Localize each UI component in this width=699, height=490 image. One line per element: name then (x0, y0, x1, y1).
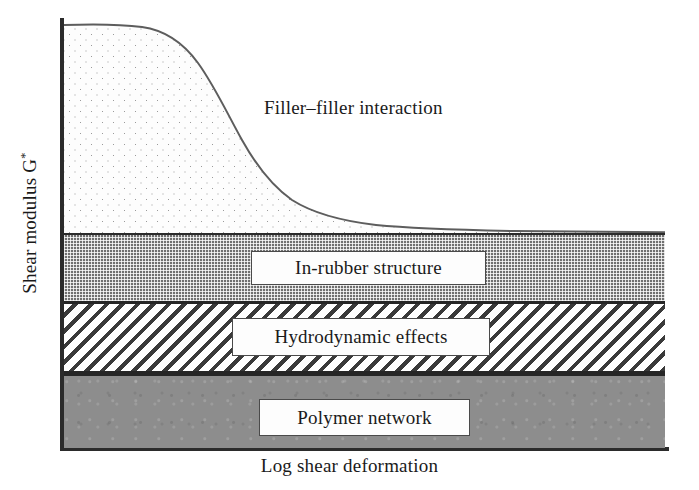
band-filler-filler-interaction (64, 18, 665, 233)
filler-filler-curve-svg (64, 18, 665, 233)
callout-in-rubber-structure: In-rubber structure (251, 251, 486, 285)
y-axis-label-text: Shear modulus G (19, 159, 40, 294)
callout-hydrodynamic-effects: Hydrodynamic effects (232, 318, 490, 356)
x-axis-label: Log shear deformation (0, 455, 699, 477)
filler-filler-dot-pattern (64, 18, 665, 233)
y-axis-label: Shear modulus G* (19, 98, 41, 348)
payne-effect-figure: Shear modulus G* Log shear deformation F… (0, 0, 699, 490)
y-axis-label-superscript: * (17, 152, 32, 159)
filler-filler-annotation: Filler–filler interaction (264, 97, 443, 119)
callout-polymer-network: Polymer network (259, 399, 470, 436)
